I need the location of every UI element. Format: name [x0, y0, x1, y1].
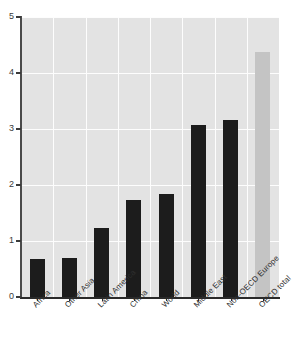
y-tick-label: 4	[0, 68, 14, 77]
bar-world	[159, 194, 174, 297]
y-tick-mark	[16, 240, 21, 242]
gridline-vertical	[150, 17, 151, 297]
y-axis-line	[20, 16, 22, 298]
y-tick-mark	[16, 296, 21, 298]
gridline-vertical	[182, 17, 183, 297]
chart-figure: 012345 AfricaOther AsiaLatin AmericaChin…	[0, 0, 299, 359]
y-tick-label: 5	[0, 12, 14, 21]
y-tick-label: 1	[0, 236, 14, 245]
y-tick-label: 0	[0, 292, 14, 301]
plot-area	[21, 17, 279, 297]
bar-latin-america	[94, 228, 109, 297]
y-tick-label: 3	[0, 124, 14, 133]
chart-title	[0, 0, 299, 3]
y-tick-mark	[16, 184, 21, 186]
gridline-vertical	[118, 17, 119, 297]
bar-non-oecd-europe	[223, 120, 238, 297]
y-tick-mark	[16, 16, 21, 18]
gridline-vertical	[215, 17, 216, 297]
y-tick-mark	[16, 128, 21, 130]
y-tick-label: 2	[0, 180, 14, 189]
gridline-vertical	[53, 17, 54, 297]
y-tick-mark	[16, 72, 21, 74]
gridline-vertical	[86, 17, 87, 297]
gridline-vertical	[247, 17, 248, 297]
bar-middle-east	[191, 125, 206, 297]
